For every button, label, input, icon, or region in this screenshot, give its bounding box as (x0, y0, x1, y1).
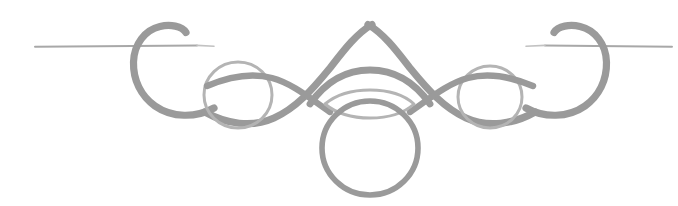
right-rule (545, 45, 672, 46)
left-rule (35, 45, 197, 46)
ornament-page (0, 0, 678, 206)
ornament-illustration (0, 0, 678, 206)
ornament-background (0, 0, 678, 206)
left-rule-taper (197, 45, 214, 46)
right-rule-taper (526, 45, 545, 46)
